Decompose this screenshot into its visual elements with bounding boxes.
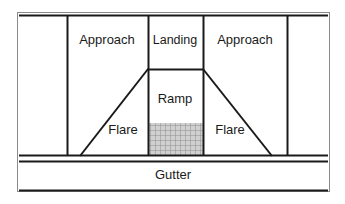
label-approach-left: Approach (79, 32, 135, 47)
label-flare-left: Flare (108, 122, 138, 137)
label-flare-right: Flare (215, 122, 245, 137)
label-gutter: Gutter (155, 167, 192, 182)
label-landing: Landing (153, 33, 198, 47)
label-approach-right: Approach (217, 32, 273, 47)
curb-ramp-diagram: Approach Landing Approach Ramp Flare Fla… (0, 0, 345, 204)
label-ramp: Ramp (158, 91, 193, 106)
ramp-hatch-area (148, 123, 203, 155)
figure-canvas: Approach Landing Approach Ramp Flare Fla… (0, 0, 345, 204)
